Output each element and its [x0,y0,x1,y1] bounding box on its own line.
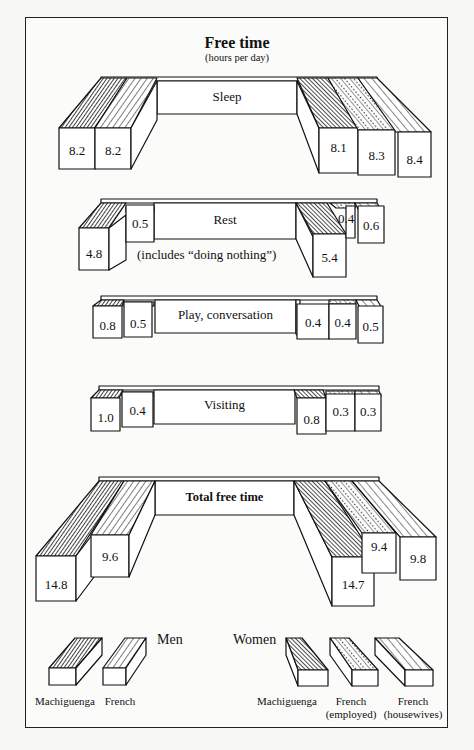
value-visiting-men-french: 0.4 [122,404,153,417]
value-total-women-french-employed: 9.4 [362,540,396,553]
value-play-women-french-employed: 0.4 [329,316,356,329]
value-rest-men-french: 0.5 [126,217,154,230]
legend-label-men-french: French [100,695,140,708]
value-total-men-machiguenga: 14.8 [36,578,76,591]
value-rest-women-machiguenga: 5.4 [313,251,346,264]
value-visiting-women-machiguenga: 0.8 [297,413,326,426]
legend-heading-women: Women [233,632,276,648]
value-total-men-french: 9.6 [91,550,129,563]
legend-swatch-men-french [103,638,146,685]
value-play-men-machiguenga: 0.8 [93,319,122,332]
legend-label-women-french-housewives: French [380,695,446,708]
category-label-visiting: Visiting [154,397,295,413]
category-label-sleep: Sleep [157,89,297,105]
category-label-play: Play, conversation [155,307,296,323]
legend-swatch-men-machiguenga [49,638,102,685]
value-visiting-women-french-employed: 0.3 [326,405,355,418]
legend-label-women-french-employed: French [323,695,379,708]
legend-sublabel-women-french-housewives: (housewives) [380,708,446,721]
value-sleep-men-french: 8.2 [95,144,131,157]
legend-label-men-machiguenga: Machiguenga [30,695,100,708]
value-rest-women-french-employed: 0.4 [333,212,359,225]
chart-title: Free time [0,34,474,52]
value-total-women-machiguenga: 14.7 [332,578,374,591]
category-label-total: Total free time [155,490,294,505]
value-sleep-women-french-employed: 8.3 [358,149,395,162]
value-visiting-women-french-housewives: 0.3 [355,405,381,418]
category-label-rest: Rest [154,212,296,228]
value-visiting-men-machiguenga: 1.0 [91,411,120,424]
legend-swatch-women-machiguenga [286,638,328,686]
value-sleep-women-french-housewives: 8.4 [398,153,431,166]
legend-heading-men: Men [157,632,183,648]
value-total-women-french-housewives: 9.8 [400,552,436,565]
value-play-men-french: 0.5 [124,317,152,330]
value-rest-women-french-housewives: 0.6 [358,219,384,232]
chart-subtitle: (hours per day) [0,52,474,63]
value-play-women-machiguenga: 0.4 [297,316,329,329]
value-play-women-french-housewives: 0.5 [358,320,383,333]
value-rest-men-machiguenga: 4.8 [79,247,109,260]
value-sleep-women-machiguenga: 8.1 [319,141,358,154]
legend-label-women-machiguenga: Machiguenga [252,695,322,708]
value-sleep-men-machiguenga: 8.2 [59,144,95,157]
rest-note: (includes “doing nothing”) [137,247,276,263]
legend-swatch-women-french-employed [330,638,378,686]
legend-sublabel-women-french-employed: (employed) [323,708,379,721]
legend-swatch-women-french-housewives [375,638,433,686]
